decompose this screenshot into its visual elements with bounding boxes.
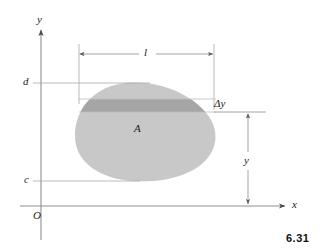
x-axis-label: x: [292, 199, 297, 210]
strip-width-label-l: l: [144, 47, 147, 58]
upper-bound-label-d: d: [23, 76, 29, 87]
figure-number: 6.31: [286, 232, 309, 244]
region-shape: [75, 83, 216, 182]
origin-label: O: [33, 210, 41, 221]
figure-drawing: [0, 0, 323, 251]
strip-thickness-label-delta-y: Δy: [214, 98, 225, 109]
y-axis-label: y: [37, 14, 42, 25]
area-label-A: A: [134, 123, 141, 134]
figure-container: y x O d c l A Δy y 6.31: [0, 0, 323, 251]
lower-bound-label-c: c: [24, 174, 29, 185]
integration-strip: [60, 99, 220, 112]
height-label-y: y: [244, 155, 249, 166]
